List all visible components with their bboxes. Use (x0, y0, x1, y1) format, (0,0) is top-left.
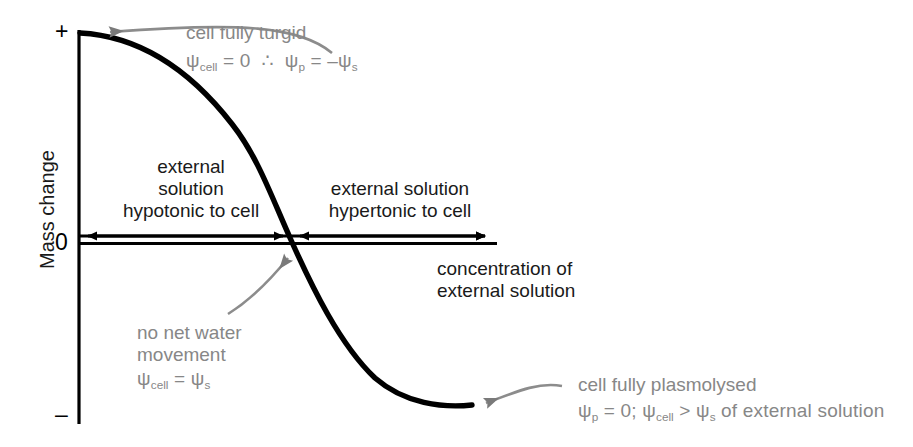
region-hypertonic-line1: external solution (302, 178, 498, 200)
annotation-equilibrium-formula: ψcell = ψs (137, 368, 210, 390)
annotation-equilibrium-line2: movement (137, 344, 226, 366)
formula-mid: = 0; ψ (598, 400, 656, 421)
psi-subscript-s: s (204, 378, 210, 391)
annotation-turgid-formula: ψcell = 0 ∴ ψp = –ψs (186, 50, 358, 72)
psi-subscript-s: s (710, 410, 716, 423)
annotation-turgid-title: cell fully turgid (186, 22, 306, 44)
y-tick-minus: – (55, 401, 68, 428)
leader-equilibrium (228, 258, 288, 314)
region-hypotonic-line2: solution (110, 178, 272, 200)
psi-symbol: ψ (578, 400, 592, 421)
psi-subscript-p: p (592, 410, 599, 423)
annotation-plasmolysed-title: cell fully plasmolysed (578, 374, 756, 396)
y-tick-plus: + (55, 18, 68, 45)
y-tick-zero: 0 (55, 229, 68, 256)
x-axis-title-line1: concentration of (437, 258, 572, 280)
formula-mid2: = –ψ (305, 50, 352, 71)
formula-tail: of external solution (716, 400, 885, 421)
psi-symbol: ψ (186, 50, 200, 71)
figure-container: Mass change + 0 – concentration of exter… (0, 0, 913, 447)
leader-plasmolysed (486, 385, 562, 403)
formula-mid: = 0 ∴ ψ (217, 50, 298, 71)
psi-symbol: ψ (137, 368, 151, 389)
formula-mid: = ψ (168, 368, 204, 389)
psi-subscript-cell: cell (656, 410, 674, 423)
formula-mid2: > ψ (674, 400, 710, 421)
region-hypotonic-line1: external (110, 156, 272, 178)
region-hypotonic-line3: hypotonic to cell (98, 200, 284, 222)
psi-subscript-s: s (352, 60, 358, 73)
psi-subscript-cell: cell (200, 60, 218, 73)
y-axis-title: Mass change (36, 135, 59, 285)
annotation-plasmolysed-formula: ψp = 0; ψcell > ψs of external solution (578, 400, 885, 422)
psi-subscript-p: p (298, 60, 305, 73)
annotation-equilibrium-line1: no net water (137, 322, 242, 344)
psi-subscript-cell: cell (151, 378, 169, 391)
x-axis-title-line2: external solution (437, 280, 575, 302)
region-hypertonic-line2: hypertonic to cell (302, 200, 498, 222)
